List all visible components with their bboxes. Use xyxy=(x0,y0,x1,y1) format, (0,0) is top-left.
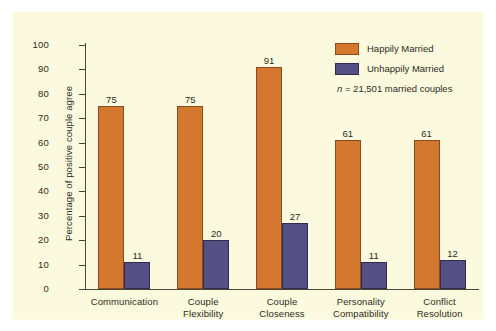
x-axis-label: ConflictResolution xyxy=(400,296,479,320)
bar-value-label: 75 xyxy=(106,95,117,105)
x-axis-label-line: Couple xyxy=(164,296,243,308)
bar-value-label: 11 xyxy=(132,251,142,261)
bar-happily-married: 61 xyxy=(335,140,361,289)
x-axis-label: PersonalityCompatibility xyxy=(321,296,400,320)
bar-unhappily-married: 20 xyxy=(203,240,229,289)
x-axis-label-line: Personality xyxy=(321,296,400,308)
bar-value-label: 20 xyxy=(211,229,222,239)
legend-swatch-unhappily-married xyxy=(335,63,359,75)
x-axis-line xyxy=(85,289,479,290)
y-axis-tick-label: 50 xyxy=(0,162,49,172)
sample-size-note: n = 21,501 married couples xyxy=(337,83,485,94)
y-axis-tick-label: 40 xyxy=(0,186,49,196)
legend-item-happily-married: Happily Married xyxy=(335,40,485,57)
y-axis-tick-label: 70 xyxy=(0,113,49,123)
y-axis-tick-label: 30 xyxy=(0,211,49,221)
bar-value-label: 12 xyxy=(447,249,458,259)
bar-unhappily-married: 27 xyxy=(282,223,308,289)
legend-label-unhappily-married: Unhappily Married xyxy=(367,63,444,74)
bar-value-label: 11 xyxy=(369,251,379,261)
x-axis-label-line: Closeness xyxy=(243,308,322,320)
x-axis-label: CoupleFlexibility xyxy=(164,296,243,320)
legend-label-happily-married: Happily Married xyxy=(367,43,434,54)
x-axis-label-line: Couple xyxy=(243,296,322,308)
y-axis-tick-label: 20 xyxy=(0,235,49,245)
bar-unhappily-married: 11 xyxy=(124,262,150,289)
x-axis-label-line: Compatibility xyxy=(321,308,400,320)
legend-item-unhappily-married: Unhappily Married xyxy=(335,60,485,77)
bar-value-label: 75 xyxy=(185,95,196,105)
x-axis-label: Communication xyxy=(85,296,164,308)
y-axis-title: Percentage of positive couple agree xyxy=(63,39,74,289)
legend-swatch-happily-married xyxy=(335,43,359,55)
bar-value-label: 61 xyxy=(343,129,354,139)
chart-figure: 1009080706050403020100 Percentage of pos… xyxy=(0,0,496,331)
x-axis-label-line: Resolution xyxy=(400,308,479,320)
bar-value-label: 91 xyxy=(264,56,275,66)
chart-legend: Happily Married Unhappily Married n = 21… xyxy=(335,40,485,94)
bar-value-label: 61 xyxy=(421,129,432,139)
y-axis-tick-label: 10 xyxy=(0,260,49,270)
y-axis-tick-label: 0 xyxy=(0,284,49,294)
bar-happily-married: 91 xyxy=(256,67,282,289)
bar-happily-married: 75 xyxy=(177,106,203,289)
y-axis-tick-label: 80 xyxy=(0,89,49,99)
chart-plate: 1009080706050403020100 Percentage of pos… xyxy=(13,12,483,319)
bar-value-label: 27 xyxy=(290,212,301,222)
y-axis-tick xyxy=(79,289,85,290)
bar-happily-married: 75 xyxy=(98,106,124,289)
x-axis-label-line: Flexibility xyxy=(164,308,243,320)
x-axis-label-line: Communication xyxy=(85,296,164,308)
x-axis-label-line: Conflict xyxy=(400,296,479,308)
bar-unhappily-married: 11 xyxy=(361,262,387,289)
x-axis-label: CoupleCloseness xyxy=(243,296,322,320)
y-axis-tick-label: 60 xyxy=(0,138,49,148)
bar-unhappily-married: 12 xyxy=(440,260,466,289)
y-axis-tick-label: 100 xyxy=(0,40,49,50)
bar-happily-married: 61 xyxy=(414,140,440,289)
y-axis-tick-label: 90 xyxy=(0,64,49,74)
sample-size-symbol: n xyxy=(337,83,342,94)
